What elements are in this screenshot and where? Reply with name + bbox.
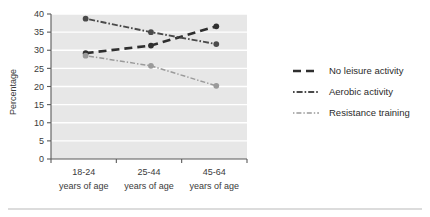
y-tick-label: 5 [39, 136, 44, 146]
y-axis-title: Percentage [8, 69, 18, 115]
data-point-marker [213, 83, 219, 89]
chart-figure: 0510152025303540 18-24years of age25-44y… [0, 0, 430, 217]
x-category-sublabel: years of age [59, 181, 109, 191]
y-tick-label: 25 [34, 64, 44, 74]
x-category-label: 45-64 [203, 167, 226, 177]
x-category-sublabel: years of age [190, 181, 240, 191]
data-point-marker [148, 63, 154, 69]
y-tick-label: 40 [34, 9, 44, 19]
legend-label: Aerobic activity [329, 86, 393, 97]
x-category-label: 18-24 [72, 167, 95, 177]
y-tick-label: 30 [34, 45, 44, 55]
data-point-marker [213, 23, 219, 29]
x-category-sublabel: years of age [124, 181, 174, 191]
y-tick-label: 15 [34, 100, 44, 110]
data-point-marker [148, 43, 154, 49]
y-tick-label: 35 [34, 27, 44, 37]
legend-label: Resistance training [329, 107, 410, 118]
legend-label: No leisure activity [329, 65, 404, 76]
percentage-by-age-line-chart: 0510152025303540 18-24years of age25-44y… [0, 0, 430, 217]
x-category-label: 25-44 [137, 167, 160, 177]
y-tick-label: 20 [34, 82, 44, 92]
data-point-marker [83, 16, 89, 22]
data-point-marker [148, 29, 154, 35]
y-tick-label: 0 [39, 154, 44, 164]
data-point-marker [213, 41, 219, 47]
y-tick-label: 10 [34, 118, 44, 128]
data-point-marker [83, 53, 89, 59]
